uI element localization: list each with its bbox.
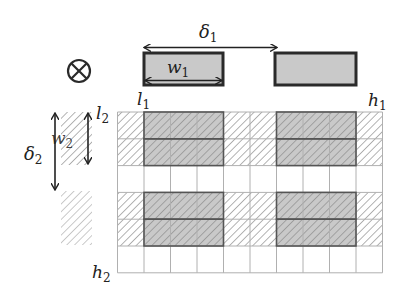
grid-cell-hatched	[277, 112, 304, 139]
grid-cell-hatched	[250, 139, 277, 166]
grid-cell-hatched	[224, 192, 251, 219]
grid-cell-hatched	[303, 219, 330, 246]
grid-cell-hatched	[197, 139, 224, 166]
delta1-label: δ1	[199, 21, 217, 45]
grid-cell-hatched	[118, 112, 145, 139]
l1-label: l1	[137, 89, 150, 112]
grid-cell-hatched	[171, 219, 198, 246]
grid-cell-hatched	[303, 139, 330, 166]
grid-cell-hatched	[171, 192, 198, 219]
grid-cell-hatched	[330, 112, 357, 139]
grid-cell-hatched	[330, 219, 357, 246]
grid-cell-hatched	[197, 219, 224, 246]
grid-cell-hatched	[277, 219, 304, 246]
grid-cell-hatched	[356, 192, 383, 219]
grid-cell-hatched	[197, 192, 224, 219]
grid-cell-hatched	[250, 192, 277, 219]
grid	[118, 112, 383, 273]
l2-label: l2	[96, 103, 109, 126]
grid-cell-hatched	[171, 112, 198, 139]
diagram-canvas: δ1 w1 l1 h1 l2 h2 δ2 w2	[0, 0, 414, 296]
grid-cell-hatched	[330, 139, 357, 166]
grid-cell-hatched	[224, 139, 251, 166]
grid-cell-hatched	[356, 112, 383, 139]
grid-cell-hatched	[356, 139, 383, 166]
grid-cell-hatched	[144, 139, 171, 166]
h1-label: h1	[368, 90, 387, 113]
grid-cell-hatched	[250, 112, 277, 139]
delta2-label: δ2	[24, 143, 42, 167]
grid-cell-hatched	[118, 139, 145, 166]
grid-cell-hatched	[356, 219, 383, 246]
grid-cell-hatched	[224, 112, 251, 139]
grid-cell-hatched	[250, 219, 277, 246]
h2-label: h2	[92, 262, 111, 285]
grid-cell-hatched	[303, 112, 330, 139]
grid-cell-hatched	[118, 192, 145, 219]
left-hatch-strip-bottom	[61, 191, 92, 245]
grid-cell-hatched	[144, 112, 171, 139]
grid-cell-hatched	[197, 112, 224, 139]
grid-cell-hatched	[303, 192, 330, 219]
grid-cell-hatched	[330, 192, 357, 219]
grid-cell-hatched	[144, 219, 171, 246]
grid-cell-hatched	[277, 139, 304, 166]
otimes-symbol-icon	[68, 60, 90, 82]
grid-cell-hatched	[277, 192, 304, 219]
grid-cell-hatched	[224, 219, 251, 246]
top-rect-2	[275, 53, 356, 85]
grid-cell-hatched	[118, 219, 145, 246]
grid-cell-hatched	[171, 139, 198, 166]
grid-cell-hatched	[144, 192, 171, 219]
